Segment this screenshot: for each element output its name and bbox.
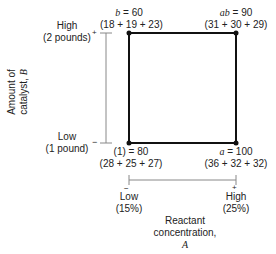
point-a <box>234 141 239 146</box>
b-axis-title: Amount of catalyst, B <box>6 52 30 132</box>
a-low-label: Low (15%) <box>109 191 149 215</box>
corner-a-label: a = 100 (36 + 32 + 32) <box>204 146 268 170</box>
point-one <box>127 141 132 146</box>
point-ab <box>234 31 239 36</box>
corner-one-label: (1) = 80 (28 + 25 + 27) <box>96 146 166 170</box>
corner-b-label: b = 60 (18 + 19 + 23) <box>100 7 158 31</box>
a-high-label: High (25%) <box>216 191 256 215</box>
point-b <box>127 31 132 36</box>
b-low-sign: − <box>92 136 97 148</box>
b-low-label: Low (1 pound) <box>38 131 96 155</box>
a-axis-title: Reactant concentration, A <box>140 215 230 251</box>
corner-ab-label: ab = 90 (31 + 30 + 29) <box>204 7 268 31</box>
design-square <box>129 33 236 143</box>
b-high-sign: + <box>92 27 97 39</box>
b-high-label: High (2 pounds) <box>38 20 96 44</box>
